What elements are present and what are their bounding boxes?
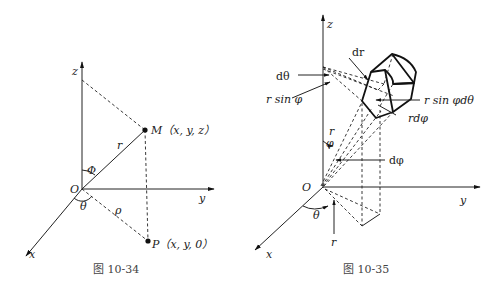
r-segment bbox=[82, 130, 145, 189]
z-axis-label: z bbox=[71, 65, 78, 78]
r-lower-label: r bbox=[331, 236, 337, 249]
x-axis-label: x bbox=[266, 248, 273, 261]
volume-element bbox=[362, 54, 416, 118]
r-sin-phi-label: r sin φ bbox=[266, 93, 302, 106]
theta-label: θ bbox=[313, 209, 320, 222]
r-dphi-label: rdφ bbox=[408, 112, 428, 125]
rho-label: ρ bbox=[114, 204, 122, 217]
base-edge bbox=[362, 214, 380, 226]
radius-line bbox=[323, 67, 362, 101]
figure-caption: 图 10-35 bbox=[343, 263, 389, 276]
origin-label: O bbox=[302, 181, 311, 194]
point-p-dot bbox=[145, 238, 150, 243]
r-label: r bbox=[117, 139, 123, 152]
figure-10-35: z y x O dr dθ r sin φ r sin φdθ rdφ r φ … bbox=[255, 15, 480, 276]
z-axis-label: z bbox=[326, 18, 333, 31]
figure-caption: 图 10-34 bbox=[93, 263, 139, 276]
phi-label: φ bbox=[326, 137, 334, 150]
x-axis-label: x bbox=[29, 248, 36, 261]
dr-label: dr bbox=[352, 46, 365, 59]
radius-line bbox=[323, 69, 394, 96]
origin-label: O bbox=[70, 183, 79, 196]
z-projection-line bbox=[82, 80, 145, 130]
guide-line bbox=[378, 84, 384, 90]
point-m-label: M（x, y, z） bbox=[150, 124, 215, 137]
base-line bbox=[325, 189, 362, 226]
point-m-dot bbox=[142, 127, 147, 132]
dphi-label: dφ bbox=[389, 154, 404, 167]
phi-label: Φ bbox=[87, 164, 96, 177]
diagram-canvas: z y x O M（x, y, z） P（x, y, 0） r ρ Φ θ 图 … bbox=[0, 0, 491, 288]
y-axis-label: y bbox=[198, 192, 206, 205]
point-p-label: P（x, y, 0） bbox=[151, 238, 213, 251]
figure-10-34: z y x O M（x, y, z） P（x, y, 0） r ρ Φ θ 图 … bbox=[26, 62, 215, 276]
vertical-projection-line bbox=[145, 130, 148, 241]
r-sin-phi-dtheta-label: r sin φdθ bbox=[424, 94, 474, 107]
theta-label: θ bbox=[80, 200, 87, 213]
dr-arrow bbox=[349, 58, 368, 80]
x-axis bbox=[26, 189, 82, 256]
cone-line bbox=[324, 112, 393, 186]
base-line bbox=[325, 189, 380, 214]
dtheta-label: dθ bbox=[276, 70, 290, 83]
y-axis-label: y bbox=[459, 194, 467, 207]
